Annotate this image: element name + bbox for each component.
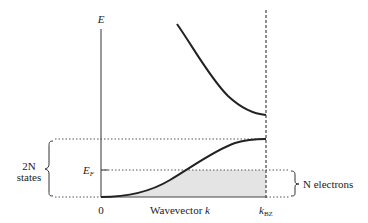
energy-axis-label: E — [97, 13, 105, 25]
fermi-level-label: EF — [82, 164, 95, 178]
occupied-states-fill — [101, 170, 266, 197]
zone-boundary-label: kBZ — [259, 204, 273, 218]
right-brace — [291, 171, 299, 196]
upper-band-curve — [177, 24, 266, 115]
band-diagram: E EF 2N states 0 Wavevector k kBZ N elec… — [0, 0, 368, 223]
left-brace-label-line2: states — [17, 171, 41, 183]
right-brace-label: N electrons — [303, 178, 353, 190]
left-brace — [45, 141, 53, 196]
wavevector-axis-label: Wavevector k — [150, 204, 211, 216]
origin-label: 0 — [98, 204, 104, 216]
